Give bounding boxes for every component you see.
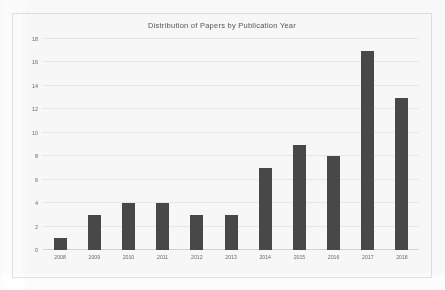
y-axis-tick-label: 8 (35, 153, 38, 159)
bar-2017[interactable] (361, 51, 374, 250)
y-axis-tick-label: 0 (35, 247, 38, 253)
y-axis-tick-label: 10 (32, 130, 38, 136)
chart-title: Distribution of Papers by Publication Ye… (13, 21, 431, 30)
bar-slot: 2009 (77, 39, 111, 250)
bar-2014[interactable] (259, 168, 272, 250)
x-axis-tick-label: 2009 (89, 254, 101, 260)
y-axis-tick-label: 14 (32, 83, 38, 89)
x-axis-tick-label: 2016 (328, 254, 340, 260)
bar-2012[interactable] (190, 215, 203, 250)
bar-2015[interactable] (293, 145, 306, 251)
y-axis-tick-label: 16 (32, 59, 38, 65)
x-axis-tick-label: 2018 (396, 254, 408, 260)
bar-2011[interactable] (156, 203, 169, 250)
plot-area: 024681012141618 200820092010201120122013… (43, 39, 419, 250)
x-axis-tick-label: 2015 (294, 254, 306, 260)
bar-slot: 2008 (43, 39, 77, 250)
x-axis-tick-label: 2010 (123, 254, 135, 260)
x-axis-tick-label: 2014 (259, 254, 271, 260)
bar-slot: 2015 (282, 39, 316, 250)
y-axis-tick-label: 2 (35, 224, 38, 230)
bar-slot: 2013 (214, 39, 248, 250)
bar-2010[interactable] (122, 203, 135, 250)
bar-slot: 2018 (385, 39, 419, 250)
bar-2008[interactable] (54, 238, 67, 250)
chart-container: Distribution of Papers by Publication Ye… (12, 13, 432, 278)
bar-slot: 2014 (248, 39, 282, 250)
x-axis-tick-label: 2011 (157, 254, 168, 260)
y-axis-tick-label: 18 (32, 36, 38, 42)
bars-layer: 2008200920102011201220132014201520162017… (43, 39, 419, 250)
x-axis-tick-label: 2012 (191, 254, 203, 260)
y-axis-tick-label: 6 (35, 177, 38, 183)
bar-2016[interactable] (327, 156, 340, 250)
x-axis-tick-label: 2008 (54, 254, 66, 260)
bar-2009[interactable] (88, 215, 101, 250)
bar-slot: 2011 (146, 39, 180, 250)
bar-slot: 2017 (351, 39, 385, 250)
y-axis-tick-label: 4 (35, 200, 38, 206)
bar-2018[interactable] (395, 98, 408, 250)
bar-slot: 2016 (317, 39, 351, 250)
x-axis-tick-label: 2013 (225, 254, 237, 260)
y-axis-tick-label: 12 (32, 106, 38, 112)
bar-slot: 2012 (180, 39, 214, 250)
x-axis-tick-label: 2017 (362, 254, 374, 260)
bar-2013[interactable] (225, 215, 238, 250)
bar-slot: 2010 (111, 39, 145, 250)
